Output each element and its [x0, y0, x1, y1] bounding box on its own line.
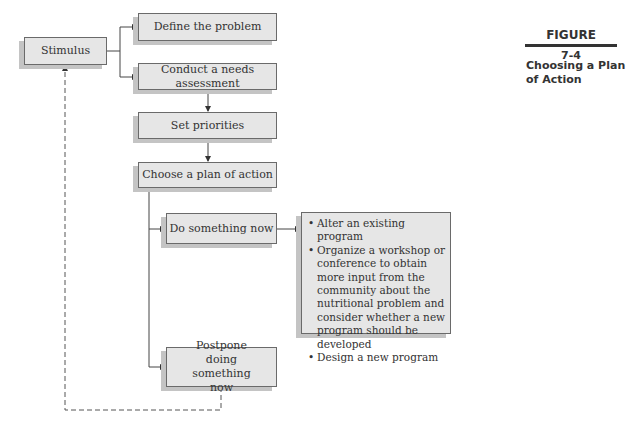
options-box: Alter an existing program Organize a wor… — [301, 212, 451, 334]
node-set-priorities-label: Set priorities — [171, 119, 244, 133]
figure-label-block: FIGURE 7-4 — [525, 28, 617, 62]
option-item: Alter an existing program — [308, 217, 446, 244]
options-list: Alter an existing program Organize a wor… — [308, 217, 446, 364]
node-define-problem: Define the problem — [138, 13, 277, 41]
figure-rule — [525, 44, 617, 47]
node-choose-plan-label: Choose a plan of action — [142, 168, 273, 182]
node-do-something-now: Do something now — [166, 213, 277, 244]
node-choose-plan: Choose a plan of action — [138, 162, 277, 188]
node-stimulus-label: Stimulus — [41, 44, 90, 58]
node-postpone-label: Postpone doing something now — [181, 339, 262, 395]
node-do-something-now-label: Do something now — [170, 222, 274, 236]
node-define-problem-label: Define the problem — [154, 20, 262, 34]
node-set-priorities: Set priorities — [138, 112, 277, 139]
figure-label: FIGURE — [525, 28, 617, 42]
node-needs-assessment-label: Conduct a needs assessment — [139, 63, 276, 91]
option-item: Organize a workshop or conference to obt… — [308, 244, 446, 351]
node-postpone: Postpone doing something now — [166, 347, 277, 387]
node-needs-assessment: Conduct a needs assessment — [138, 63, 277, 90]
node-stimulus: Stimulus — [24, 37, 107, 65]
figure-caption: Choosing a Plan of Action — [526, 59, 630, 87]
option-item: Design a new program — [308, 351, 446, 364]
